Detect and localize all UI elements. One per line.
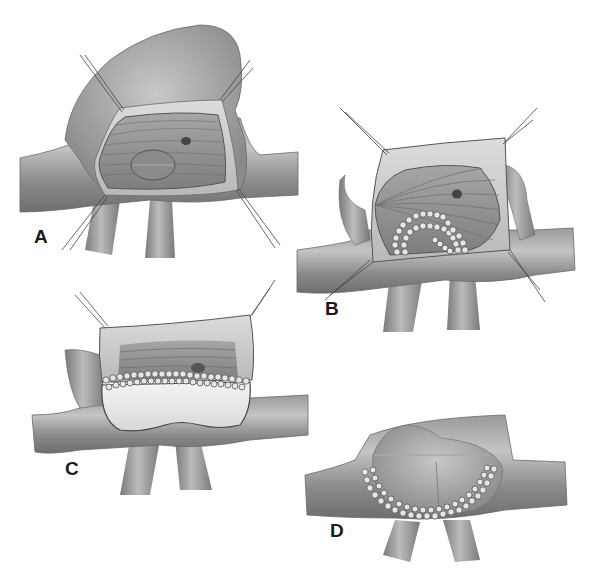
panel-b-illustration <box>295 80 595 340</box>
panel-d: D <box>295 370 595 576</box>
panel-d-illustration <box>295 370 595 576</box>
panel-label-a: A <box>34 226 48 248</box>
panel-label-c: C <box>65 458 79 480</box>
panel-label-d: D <box>330 520 344 542</box>
panel-c: C <box>20 280 310 520</box>
panel-a-illustration <box>0 0 300 260</box>
panel-b: B <box>295 80 595 340</box>
panel-label-b: B <box>325 298 339 320</box>
panel-a: A <box>0 0 300 260</box>
panel-c-illustration <box>20 280 310 520</box>
